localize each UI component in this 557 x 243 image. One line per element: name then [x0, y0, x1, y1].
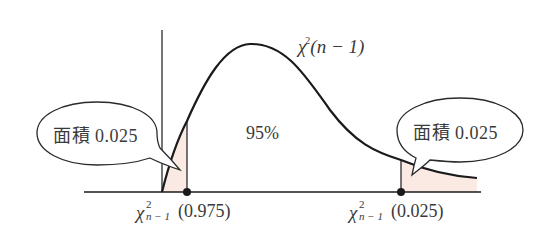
- curve-label: χ2(n − 1): [298, 36, 364, 58]
- right-critical-value-label: χ 2 n − 1 (0.025): [349, 200, 444, 222]
- left-critical-subscript: n − 1: [146, 210, 170, 222]
- right-critical-arg: (0.025): [391, 201, 444, 221]
- curve-label-superscript: 2: [305, 35, 310, 46]
- right-critical-subscript: n − 1: [359, 210, 383, 222]
- right-critical-superscript: 2: [359, 198, 365, 210]
- right-tail-area-label: 面積 0.025: [413, 118, 498, 144]
- left-critical-point: [183, 188, 191, 196]
- left-critical-arg: (0.975): [178, 201, 231, 221]
- left-critical-value-label: χ 2 n − 1 (0.975): [136, 200, 231, 222]
- center-area-label: 95%: [246, 123, 279, 144]
- right-critical-symbol: χ: [349, 202, 357, 224]
- left-critical-symbol: χ: [136, 202, 144, 224]
- left-critical-superscript: 2: [146, 198, 152, 210]
- curve-label-args: (n − 1): [310, 36, 364, 57]
- right-critical-point: [397, 188, 405, 196]
- left-tail-area-label: 面積 0.025: [53, 121, 138, 147]
